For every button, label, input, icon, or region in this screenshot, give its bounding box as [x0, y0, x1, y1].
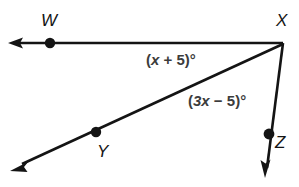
angle-1-constant: 5 [176, 51, 184, 68]
point-w-dot [45, 38, 55, 48]
geometry-figure: W X Y Z (x + 5)° (3x − 5)° [0, 0, 299, 187]
point-label-w: W [41, 12, 57, 29]
angle-2-variable: 3x [193, 92, 210, 109]
ray-xy-arrowhead-icon [10, 162, 29, 173]
point-label-y: Y [97, 143, 108, 160]
point-z-dot [264, 129, 275, 140]
angle-2-operator: − [210, 92, 227, 109]
angle-1-suffix: )° [185, 51, 196, 68]
point-label-z: Z [275, 134, 285, 151]
ray-xz-arrowhead-icon [261, 160, 271, 179]
angle-2-suffix: )° [235, 92, 246, 109]
point-label-x: X [276, 12, 287, 29]
point-y-dot [91, 127, 101, 137]
angle-label-wxy: (x + 5)° [146, 52, 196, 67]
angle-2-constant: 5 [227, 92, 235, 109]
angle-label-yxz: (3x − 5)° [188, 93, 246, 108]
angle-1-operator: + [159, 51, 176, 68]
